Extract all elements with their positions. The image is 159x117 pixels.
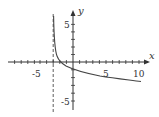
- x-tick-label: 10: [133, 69, 145, 79]
- x-tick-label: 5: [103, 69, 109, 79]
- y-axis-label: y: [77, 5, 84, 16]
- y-tick-label: 5: [64, 20, 70, 30]
- y-arrow-icon: [71, 10, 76, 16]
- y-tick-label: -5: [61, 97, 70, 107]
- graph: -5 5 10 5 -5 x y: [0, 0, 159, 117]
- x-tick-label: -5: [32, 69, 41, 79]
- x-axis-label: x: [149, 50, 155, 61]
